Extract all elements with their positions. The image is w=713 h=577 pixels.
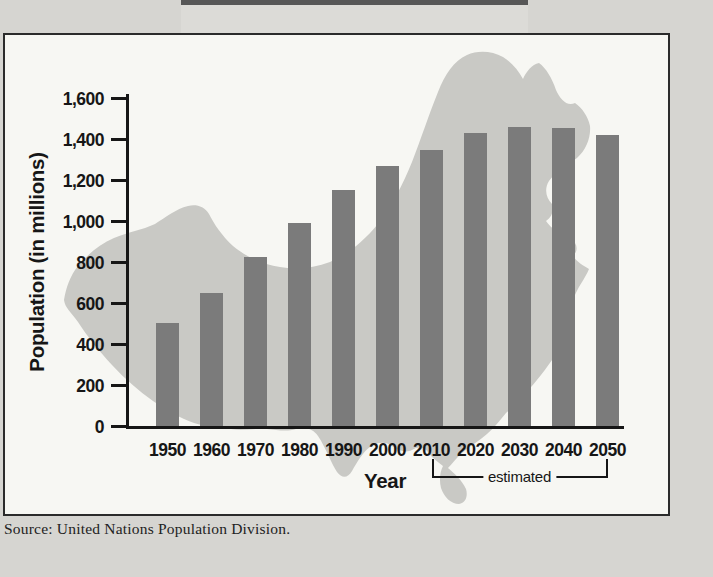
y-tick <box>111 138 126 141</box>
y-tick <box>111 97 126 100</box>
bar <box>156 323 179 428</box>
x-axis-title: Year <box>364 469 406 493</box>
y-tick <box>111 179 126 182</box>
y-tick <box>111 302 126 305</box>
y-tick-label: 0 <box>44 417 104 437</box>
x-tick-label: 2050 <box>580 440 636 460</box>
y-tick-label: 1,200 <box>44 171 104 191</box>
x-axis-line <box>126 426 624 429</box>
bar <box>552 128 575 427</box>
bar <box>332 190 355 428</box>
bar <box>288 223 311 428</box>
y-tick-label: 1,600 <box>44 89 104 109</box>
bar <box>508 127 531 427</box>
page: Population (in millions) Year 0200400600… <box>0 0 713 577</box>
y-tick-label: 200 <box>44 376 104 396</box>
y-tick <box>111 343 126 346</box>
plot-area: Population (in millions) Year 0200400600… <box>3 33 670 516</box>
y-tick-label: 1,000 <box>44 212 104 232</box>
y-tick-label: 800 <box>44 253 104 273</box>
bar <box>200 293 223 427</box>
y-tick <box>111 220 126 223</box>
title-banner-cropped <box>181 0 528 33</box>
source-note: Source: United Nations Population Divisi… <box>4 520 290 538</box>
estimated-bracket: estimated <box>432 459 608 478</box>
y-tick-label: 1,400 <box>44 130 104 150</box>
bar <box>244 257 267 427</box>
chart-figure-box: Population (in millions) Year 0200400600… <box>3 33 670 516</box>
estimated-label: estimated <box>483 468 556 485</box>
y-tick-label: 400 <box>44 335 104 355</box>
bar <box>464 133 487 427</box>
bar <box>376 166 399 427</box>
bar <box>596 135 619 427</box>
bar <box>420 150 443 428</box>
y-tick <box>111 384 126 387</box>
y-tick <box>111 261 126 264</box>
y-tick <box>111 425 126 428</box>
y-tick-label: 600 <box>44 294 104 314</box>
